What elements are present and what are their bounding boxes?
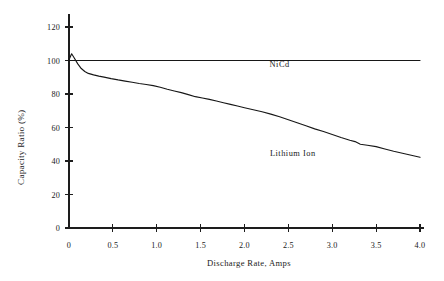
y-tick-label-60: 60: [51, 124, 60, 133]
series-annotations: NiCdLithium Ion: [270, 60, 316, 158]
y-axis-tick-labels: 020406080100120: [47, 23, 60, 233]
chart-figure: 020406080100120 00.51.01.52.02.53.03.54.…: [0, 0, 444, 281]
x-tick-label-1.5: 1.5: [195, 241, 206, 250]
x-tick-label-1.0: 1.0: [151, 241, 162, 250]
annotation-nicd: NiCd: [270, 60, 290, 69]
x-tick-label-3.0: 3.0: [327, 241, 338, 250]
chart-series-group: [69, 54, 420, 158]
x-tick-label-0: 0: [67, 241, 71, 250]
chart-plot-area: 020406080100120 00.51.01.52.02.53.03.54.…: [0, 0, 444, 281]
y-tick-label-80: 80: [51, 90, 60, 99]
y-axis-title: Capacity Ratio (%): [16, 110, 26, 185]
annotation-lithium-ion: Lithium Ion: [270, 149, 316, 158]
x-tick-label-4.0: 4.0: [415, 241, 426, 250]
y-tick-label-100: 100: [47, 57, 60, 66]
y-tick-label-120: 120: [47, 23, 60, 32]
x-axis-tick-labels: 00.51.01.52.02.53.03.54.0: [67, 241, 426, 250]
x-axis-title: Discharge Rate, Amps: [207, 258, 291, 268]
series-line-lithium-ion: [69, 54, 420, 158]
x-tick-label-2.5: 2.5: [283, 241, 294, 250]
x-tick-label-3.5: 3.5: [371, 241, 382, 250]
x-tick-label-2.0: 2.0: [239, 241, 250, 250]
y-tick-label-0: 0: [56, 224, 60, 233]
y-tick-label-40: 40: [51, 157, 60, 166]
x-tick-label-0.5: 0.5: [107, 241, 118, 250]
y-tick-label-20: 20: [51, 191, 60, 200]
